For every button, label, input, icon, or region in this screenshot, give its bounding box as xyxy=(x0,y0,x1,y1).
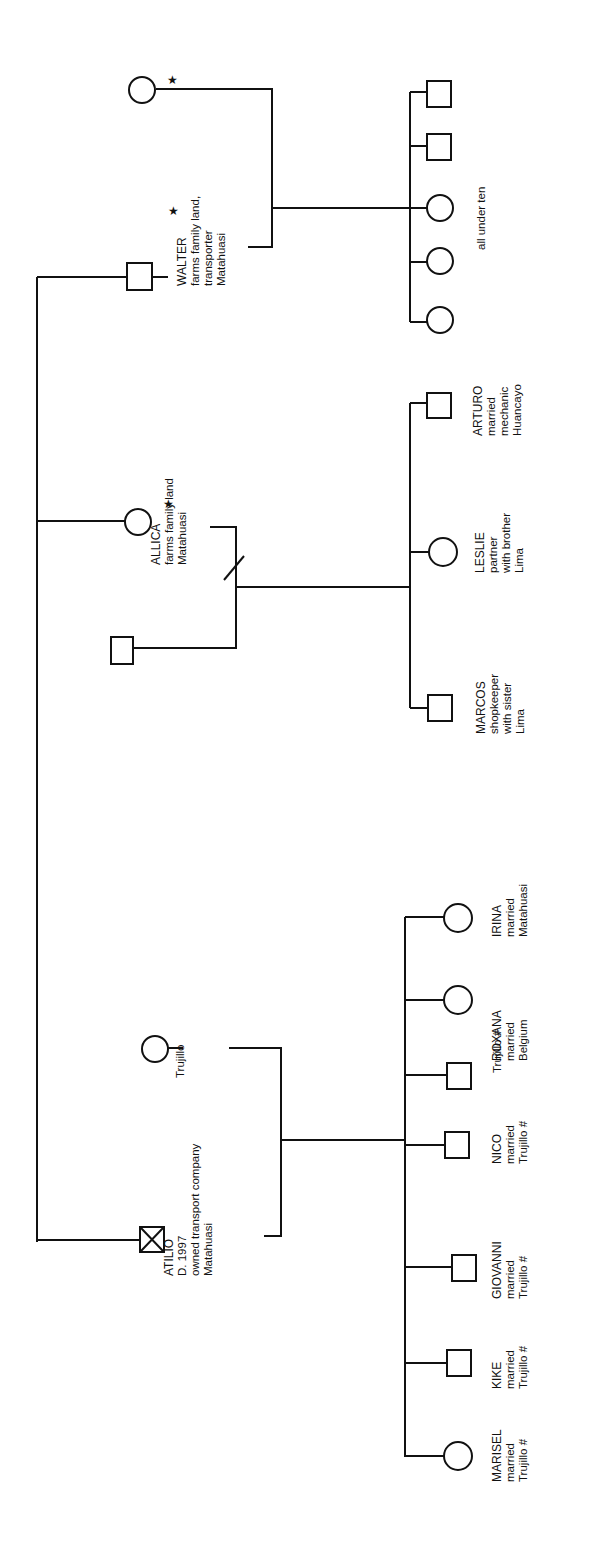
trujillo-spouse-label: Trujillo xyxy=(174,1045,187,1078)
allica-label: ALLICA farms family land Matahuasi xyxy=(150,478,189,565)
walter-spouse-female-circle xyxy=(129,77,155,103)
walter-child-4-circle xyxy=(427,248,453,274)
atilio-marriage-line xyxy=(229,1048,281,1236)
giovanni-male-square xyxy=(452,1255,476,1281)
kinship-diagram xyxy=(0,0,590,1565)
arturo-male-square xyxy=(427,393,451,418)
arturo-label: ARTURO married mechanic Huancayo xyxy=(472,384,524,436)
walter-children-note: all under ten xyxy=(475,187,488,250)
trujillo-son-male-square xyxy=(447,1063,471,1089)
walter-child-2-square xyxy=(427,134,451,160)
marcos-label: MARCOS shopkeeper with sister Lima xyxy=(475,674,527,734)
marcos-male-square xyxy=(428,695,452,721)
kike-label: KIKE married Trujillo # xyxy=(491,1346,530,1389)
walter-male-square xyxy=(127,263,152,290)
irina-female-circle xyxy=(444,904,472,932)
irina-label: IRINA married Matahuasi xyxy=(491,884,530,937)
kike-male-square xyxy=(447,1350,471,1376)
nico-male-square xyxy=(445,1132,469,1158)
allica-female-circle xyxy=(125,509,151,535)
roxana-female-circle xyxy=(444,986,472,1014)
separation-slash xyxy=(224,556,244,580)
marisel-female-circle xyxy=(444,1442,472,1470)
trujillo-son-label: Trujillo # xyxy=(491,1030,504,1073)
walter-child-3-circle xyxy=(427,195,453,221)
leslie-label: LESLIE partner with brother Lima xyxy=(474,513,526,573)
marisel-label: MARISEL married Trujillo # xyxy=(491,1429,530,1482)
walter-child-5-circle xyxy=(427,307,453,333)
allica-spouse-male-square xyxy=(111,637,133,664)
walter-label: WALTER farms family land, transporter Ma… xyxy=(176,196,228,286)
nico-label: NICO married Trujillo # xyxy=(491,1121,530,1164)
giovanni-label: GIOVANNI married Trujillo # xyxy=(491,1241,530,1299)
trujillo-spouse-female-circle xyxy=(142,1036,168,1062)
star-icon: ★ xyxy=(167,74,178,86)
leslie-female-circle xyxy=(429,538,457,566)
walter-child-1-square xyxy=(427,81,451,107)
atilio-label: ATILIO D. 1997 owned transport company M… xyxy=(163,1144,215,1276)
